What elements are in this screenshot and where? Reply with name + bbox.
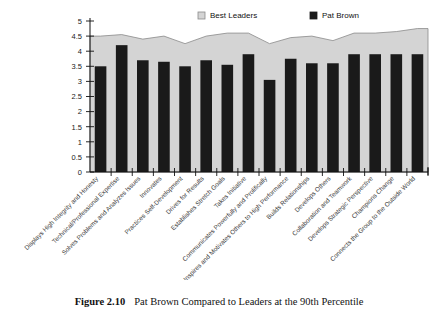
figure-caption: Figure 2.10Pat Brown Compared to Leaders… [0, 296, 438, 307]
y-axis-tick-label: 0.5 [72, 153, 82, 162]
bar-pat-brown [222, 65, 234, 172]
bar-pat-brown [327, 63, 339, 172]
y-axis-tick-label: 4.5 [72, 32, 82, 41]
bar-pat-brown [391, 54, 403, 172]
chart-legend: Best LeadersPat Brown [198, 11, 359, 20]
y-axis-tick-label: 3.5 [72, 62, 82, 71]
y-axis-tick-label: 2 [78, 107, 82, 116]
bar-pat-brown [264, 80, 276, 172]
figure-container: 00.511.522.533.544.55Displays High Integ… [0, 0, 438, 320]
x-axis-category-label: Drives for Results [164, 175, 205, 216]
bar-pat-brown [158, 62, 170, 172]
legend-swatch [310, 12, 317, 19]
y-axis-tick-label: 2.5 [72, 92, 82, 101]
x-axis-category-label: Solves Problems and Analyzes Issues [60, 175, 142, 257]
bar-pat-brown [412, 54, 424, 172]
x-axis-category-labels: Displays High Integrity and HonestyTechn… [23, 174, 417, 280]
legend-label: Pat Brown [322, 11, 359, 20]
figure-number: Figure 2.10 [75, 296, 126, 307]
bar-pat-brown [348, 54, 360, 172]
bar-pat-brown [179, 66, 191, 172]
bar-pat-brown [95, 66, 107, 172]
chart-canvas: 00.511.522.533.544.55Displays High Integ… [0, 0, 438, 280]
y-axis-tick-label: 3 [78, 77, 82, 86]
bar-chart-plot: 00.511.522.533.544.55Displays High Integ… [0, 0, 438, 280]
bar-pat-brown [137, 60, 149, 172]
bar-pat-brown [306, 63, 318, 172]
y-axis-tick-label: 5 [78, 17, 82, 26]
x-axis-category-label: Displays High Integrity and Honesty [23, 174, 101, 252]
legend-swatch [198, 12, 205, 19]
bar-pat-brown [243, 54, 255, 172]
bar-pat-brown [285, 59, 297, 172]
y-axis-tick-label: 4 [78, 47, 82, 56]
y-axis-tick-label: 1.5 [72, 123, 82, 132]
y-axis-tick-label: 1 [78, 138, 82, 147]
bar-pat-brown [116, 45, 128, 172]
bar-pat-brown [200, 60, 212, 172]
y-axis-tick-label: 0 [78, 168, 82, 177]
bar-pat-brown [369, 54, 381, 172]
legend-label: Best Leaders [210, 11, 257, 20]
figure-caption-text: Pat Brown Compared to Leaders at the 90t… [134, 296, 363, 307]
